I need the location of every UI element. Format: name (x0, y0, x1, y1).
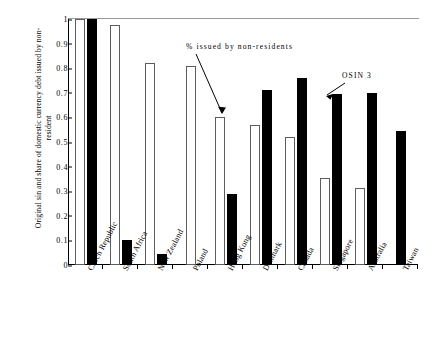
annotation-arrow-osin3 (0, 0, 441, 345)
chart-figure: Original sin and share of domestic curre… (0, 0, 441, 345)
